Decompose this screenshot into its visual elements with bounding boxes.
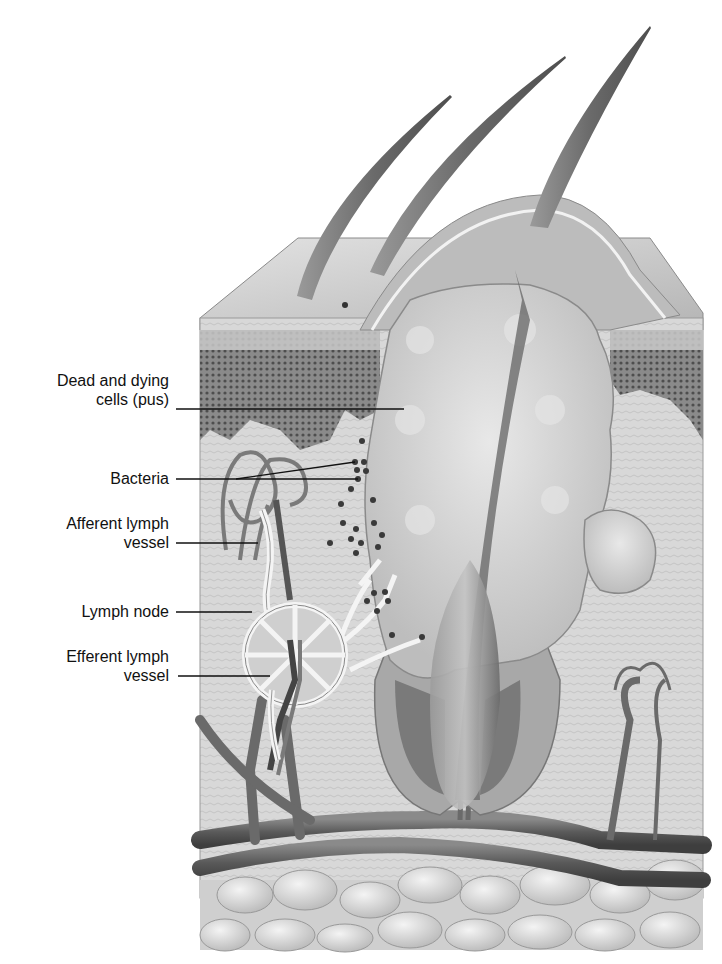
label-afferent-lymph-vessel: Afferent lymph vessel	[66, 514, 169, 552]
abscess-diagram: Dead and dying cells (pus) Bacteria Affe…	[0, 0, 722, 964]
label-afferent-line2: vessel	[66, 533, 169, 552]
label-efferent-lymph-vessel: Efferent lymph vessel	[66, 647, 169, 685]
label-bacteria: Bacteria	[110, 469, 169, 488]
label-pus-line1: Dead and dying	[57, 371, 169, 390]
illustration	[0, 0, 722, 964]
label-afferent-line1: Afferent lymph	[66, 514, 169, 533]
label-bacteria-line1: Bacteria	[110, 469, 169, 488]
label-pus-line2: cells (pus)	[57, 390, 169, 409]
label-pus: Dead and dying cells (pus)	[57, 371, 169, 409]
label-node-line1: Lymph node	[82, 602, 169, 621]
label-efferent-line1: Efferent lymph	[66, 647, 169, 666]
label-efferent-line2: vessel	[66, 666, 169, 685]
label-lymph-node: Lymph node	[82, 602, 169, 621]
